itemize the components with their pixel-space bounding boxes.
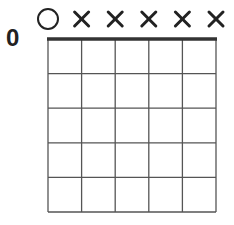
chord-diagram: 0 [0,0,234,225]
open-string-icon [38,9,58,29]
muted-string-icon [108,12,122,26]
muted-string-icon [142,12,156,26]
muted-string-icon [209,12,223,26]
muted-string-icon [175,12,189,26]
fret-position-label: 0 [6,26,19,50]
chord-grid [0,0,234,225]
muted-string-icon [75,12,89,26]
